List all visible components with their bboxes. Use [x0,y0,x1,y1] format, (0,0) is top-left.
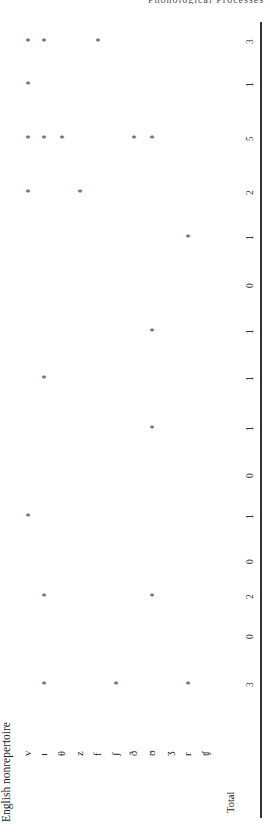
cell-mark: * [24,37,32,45]
cell-mark: * [184,233,192,241]
cell-mark: * [148,424,156,432]
row-label: θ [57,751,68,756]
cell-mark: * [40,680,48,688]
cell-mark: * [40,592,48,600]
column-total: 3 [246,39,256,44]
cell-mark: * [94,37,102,45]
cell-mark: * [24,188,32,196]
row-label: ʊ [147,750,158,756]
row-label: ʧ [201,751,212,756]
total-label: Total [226,792,237,813]
row-label: f [93,753,104,757]
running-head: Phonological Processes [148,0,270,4]
cell-mark: * [130,134,138,142]
cell-mark: * [24,512,32,520]
cell-mark: * [112,680,120,688]
cell-mark: * [40,374,48,382]
row-label: ʃ [111,753,122,757]
cell-mark: * [76,188,84,196]
row-label: v [23,751,34,756]
cell-mark: * [24,80,32,88]
column-total: 1 [246,376,256,381]
cell-mark: * [58,134,66,142]
cell-mark: * [24,134,32,142]
column-total: 1 [246,514,256,519]
cell-mark: * [184,680,192,688]
column-total: 1 [246,82,256,87]
table-caption: English nonrepertoire [1,722,13,822]
column-total: 2 [246,594,256,599]
column-total: 0 [246,283,256,288]
column-total: 1 [246,329,256,334]
column-total: 3 [246,682,256,687]
row-label: ɪ [39,753,50,756]
column-total: 1 [246,426,256,431]
cell-mark: * [148,327,156,335]
column-total: 5 [246,136,256,141]
column-total: 1 [246,235,256,240]
row-label: z [75,751,86,756]
row-label: ʒ [165,751,176,756]
column-total: 0 [246,473,256,478]
column-total: 0 [246,559,256,564]
cell-mark: * [148,134,156,142]
row-label: ð [129,751,140,756]
row-label: r [183,753,194,757]
cell-mark: * [148,592,156,600]
table-rule-right [260,22,262,818]
cell-mark: * [40,134,48,142]
cell-mark: * [40,37,48,45]
column-total: 2 [246,190,256,195]
column-total: 0 [246,634,256,639]
